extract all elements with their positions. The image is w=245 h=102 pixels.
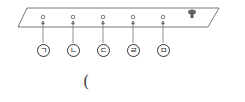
hole-5: [161, 15, 165, 19]
hole-3: [101, 15, 105, 19]
hole-2: [71, 15, 75, 19]
hole-4: [131, 15, 135, 19]
peg-icon: [188, 10, 196, 19]
label-rieul: ㄹ: [127, 44, 140, 57]
label-mieum: ㅁ: [157, 44, 170, 57]
label-nieun: ㄴ: [67, 44, 80, 57]
label-digeut: ㄷ: [97, 44, 110, 57]
hole-1: [41, 15, 45, 19]
answer-parenthesis: (: [83, 72, 89, 91]
label-giyeok: ㄱ: [37, 44, 50, 57]
holes-group: [41, 15, 165, 19]
arrows-group: [42, 21, 165, 43]
